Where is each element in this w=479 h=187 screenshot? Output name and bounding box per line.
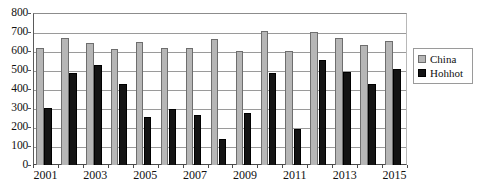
chart-screenshot: 8007006005004003002001000 20012003200520… [0, 0, 479, 187]
bar-group-2006 [158, 13, 183, 165]
x-tick-label-2013: 2013 [333, 169, 357, 181]
bar-hohhot-2005 [144, 117, 152, 165]
bar-hohhot-2009 [244, 113, 252, 165]
bar-china-2014 [360, 45, 368, 165]
bar-hohhot-2001 [44, 108, 52, 165]
x-tick-label-2001: 2001 [33, 169, 57, 181]
bar-group-2013 [332, 13, 357, 165]
bar-hohhot-2002 [69, 73, 77, 165]
bar-group-2003 [83, 13, 108, 165]
bar-group-2009 [232, 13, 257, 165]
x-tick-label-2005: 2005 [133, 169, 157, 181]
y-tick-label-300: 300 [11, 102, 28, 114]
bars-layer [33, 13, 407, 165]
x-tickmark-7 [208, 165, 209, 168]
bar-china-2006 [161, 48, 169, 165]
y-tick-label-400: 400 [11, 83, 28, 95]
y-tickmark-600 [28, 51, 31, 52]
bar-hohhot-2010 [269, 73, 277, 165]
legend-item-hohhot[interactable]: Hohhot [418, 66, 468, 80]
x-tickmark-15 [407, 165, 408, 168]
bar-group-2004 [108, 13, 133, 165]
bar-group-2012 [307, 13, 332, 165]
bar-china-2011 [285, 51, 293, 165]
x-tick-label-2009: 2009 [233, 169, 257, 181]
bar-china-2013 [335, 38, 343, 165]
y-tick-label-200: 200 [11, 121, 28, 133]
bar-group-2002 [58, 13, 83, 165]
bar-hohhot-2007 [194, 115, 202, 165]
y-tick-label-800: 800 [11, 7, 28, 19]
x-tickmark-3 [108, 165, 109, 168]
y-axis: 8007006005004003002001000 [0, 0, 31, 187]
bar-china-2001 [36, 48, 44, 165]
bar-china-2004 [111, 49, 119, 165]
bar-hohhot-2003 [94, 65, 102, 165]
x-tickmark-11 [307, 165, 308, 168]
chart-legend: China Hohhot [413, 48, 473, 84]
bar-hohhot-2008 [219, 139, 227, 165]
x-tick-label-2003: 2003 [83, 169, 107, 181]
bar-hohhot-2006 [169, 109, 177, 165]
bar-group-2008 [208, 13, 233, 165]
bar-group-2014 [357, 13, 382, 165]
y-tickmark-300 [28, 108, 31, 109]
bar-group-2001 [33, 13, 58, 165]
y-tickmark-100 [28, 146, 31, 147]
y-tick-label-100: 100 [11, 140, 28, 152]
x-tick-label-2007: 2007 [183, 169, 207, 181]
y-tick-label-600: 600 [11, 45, 28, 57]
bar-hohhot-2014 [368, 84, 376, 165]
x-tickmark-5 [158, 165, 159, 168]
x-tick-label-2011: 2011 [283, 169, 307, 181]
bar-group-2007 [183, 13, 208, 165]
y-tickmark-500 [28, 70, 31, 71]
bar-group-2010 [257, 13, 282, 165]
bar-china-2003 [86, 43, 94, 165]
bar-hohhot-2012 [319, 60, 327, 165]
bar-hohhot-2015 [393, 69, 401, 165]
legend-label-hohhot: Hohhot [430, 68, 463, 79]
bar-group-2015 [382, 13, 407, 165]
legend-swatch-china-icon [418, 55, 426, 63]
bar-group-2005 [133, 13, 158, 165]
legend-swatch-hohhot-icon [418, 69, 426, 77]
bar-hohhot-2011 [294, 129, 302, 165]
y-tickmark-400 [28, 89, 31, 90]
legend-label-china: China [430, 54, 456, 65]
y-tickmark-700 [28, 32, 31, 33]
y-tickmark-200 [28, 127, 31, 128]
bar-china-2007 [186, 48, 194, 165]
x-tickmark-1 [58, 165, 59, 168]
x-tickmark-9 [257, 165, 258, 168]
x-tick-label-2015: 2015 [383, 169, 407, 181]
bar-china-2009 [236, 51, 244, 165]
x-axis: 20012003200520072009201120132015 [33, 165, 407, 187]
bar-china-2012 [310, 32, 318, 165]
y-tick-label-500: 500 [11, 64, 28, 76]
bar-china-2010 [261, 31, 269, 165]
bar-hohhot-2004 [119, 84, 127, 165]
legend-item-china[interactable]: China [418, 52, 468, 66]
bar-hohhot-2013 [343, 72, 351, 165]
x-tickmark-13 [357, 165, 358, 168]
bar-china-2008 [211, 39, 219, 165]
bar-china-2002 [61, 38, 69, 165]
y-tick-label-700: 700 [11, 26, 28, 38]
bar-group-2011 [282, 13, 307, 165]
bar-china-2015 [385, 41, 393, 165]
bar-china-2005 [136, 42, 144, 165]
y-tickmark-800 [28, 13, 31, 14]
y-tickmark-0 [28, 165, 31, 166]
